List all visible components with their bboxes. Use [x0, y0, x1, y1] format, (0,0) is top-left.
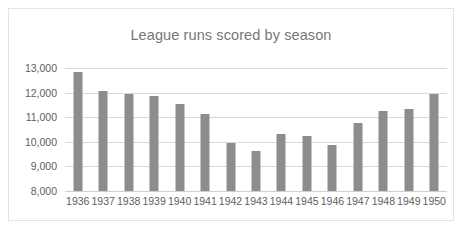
plot-area	[65, 68, 447, 191]
x-tick-label-1937: 1937	[92, 195, 115, 207]
y-tick-label-9000: 9,000	[31, 160, 57, 172]
bar-series	[65, 68, 447, 191]
y-tick-label-10000: 10,000	[25, 136, 57, 148]
bar-slot	[218, 68, 243, 191]
y-tick-label-12000: 12,000	[25, 87, 57, 99]
bar-slot	[269, 68, 294, 191]
chart-title: League runs scored by season	[9, 27, 453, 43]
bar-1950[interactable]	[430, 94, 439, 191]
y-tick-label-8000: 8,000	[31, 185, 57, 197]
x-tick-label-1948: 1948	[372, 195, 395, 207]
x-tick-label-1943: 1943	[244, 195, 267, 207]
bar-slot	[90, 68, 115, 191]
bar-slot	[371, 68, 396, 191]
x-tick-label-1939: 1939	[142, 195, 165, 207]
bar-1947[interactable]	[353, 123, 362, 191]
x-tick-label-1950: 1950	[423, 195, 446, 207]
x-axis: 1936193719381939194019411942194319441945…	[65, 195, 447, 213]
y-tick-label-13000: 13,000	[25, 62, 57, 74]
x-tick-label-1945: 1945	[295, 195, 318, 207]
x-tick-label-1942: 1942	[219, 195, 242, 207]
y-axis: 8,0009,00010,00011,00012,00013,000	[9, 68, 61, 191]
bar-1938[interactable]	[124, 94, 133, 191]
bar-slot	[396, 68, 421, 191]
x-tick-label-1938: 1938	[117, 195, 140, 207]
bar-1945[interactable]	[302, 136, 311, 191]
x-tick-label-1940: 1940	[168, 195, 191, 207]
bar-slot	[422, 68, 447, 191]
bar-slot	[192, 68, 217, 191]
bar-slot	[243, 68, 268, 191]
chart-card: League runs scored by season 8,0009,0001…	[8, 8, 454, 221]
x-tick-label-1936: 1936	[66, 195, 89, 207]
x-tick-label-1946: 1946	[321, 195, 344, 207]
bar-slot	[294, 68, 319, 191]
bar-1948[interactable]	[379, 111, 388, 191]
x-tick-label-1944: 1944	[270, 195, 293, 207]
x-tick-label-1949: 1949	[397, 195, 420, 207]
gridline-8000	[65, 191, 447, 192]
bar-1944[interactable]	[277, 134, 286, 191]
bar-slot	[167, 68, 192, 191]
bar-1942[interactable]	[226, 143, 235, 191]
x-tick-label-1941: 1941	[193, 195, 216, 207]
bar-1937[interactable]	[99, 91, 108, 191]
y-tick-label-11000: 11,000	[26, 111, 57, 123]
bar-1949[interactable]	[404, 109, 413, 191]
bar-slot	[345, 68, 370, 191]
bar-slot	[141, 68, 166, 191]
bar-1936[interactable]	[73, 72, 82, 191]
bar-slot	[320, 68, 345, 191]
bar-slot	[116, 68, 141, 191]
bar-1939[interactable]	[150, 96, 159, 191]
bar-1940[interactable]	[175, 104, 184, 191]
bar-1943[interactable]	[251, 151, 260, 191]
bar-1941[interactable]	[201, 114, 210, 191]
x-tick-label-1947: 1947	[346, 195, 369, 207]
bar-1946[interactable]	[328, 145, 337, 191]
bar-slot	[65, 68, 90, 191]
